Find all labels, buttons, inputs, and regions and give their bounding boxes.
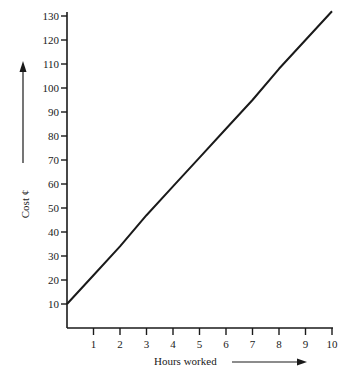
y-tick-label: 100 — [43, 82, 60, 94]
y-tick-label: 50 — [48, 202, 60, 214]
y-tick-label: 40 — [48, 226, 60, 238]
x-tick-label: 8 — [276, 338, 282, 350]
y-tick-label: 80 — [48, 130, 60, 142]
y-axis: 102030405060708090100110120130 — [43, 10, 68, 328]
y-axis-arrow-icon — [20, 61, 27, 163]
x-axis-arrow-icon — [232, 359, 307, 366]
y-tick-label: 30 — [48, 250, 60, 262]
x-tick-label: 10 — [327, 338, 339, 350]
y-tick-label: 10 — [48, 298, 60, 310]
cost-vs-hours-chart: 102030405060708090100110120130 123456789… — [0, 0, 349, 376]
y-tick-label: 90 — [48, 106, 60, 118]
y-axis-label: Cost ¢ — [19, 190, 31, 218]
x-tick-label: 7 — [250, 338, 256, 350]
x-tick-label: 9 — [303, 338, 309, 350]
x-tick-label: 2 — [117, 338, 123, 350]
cost-line — [67, 11, 332, 304]
x-tick-label: 5 — [197, 338, 203, 350]
x-tick-label: 4 — [170, 338, 176, 350]
x-tick-label: 6 — [223, 338, 229, 350]
y-tick-label: 110 — [43, 58, 60, 70]
y-tick-label: 20 — [48, 274, 60, 286]
y-tick-label: 60 — [48, 178, 60, 190]
data-series — [67, 11, 332, 304]
y-tick-label: 120 — [43, 34, 60, 46]
x-tick-label: 3 — [144, 338, 150, 350]
y-tick-label: 130 — [43, 10, 60, 22]
x-axis: 12345678910 — [67, 328, 338, 350]
y-tick-label: 70 — [48, 154, 60, 166]
x-axis-label: Hours worked — [154, 355, 217, 367]
x-tick-label: 1 — [91, 338, 97, 350]
